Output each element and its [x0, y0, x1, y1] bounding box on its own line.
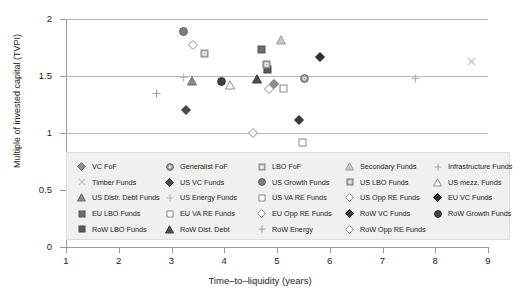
- chart-figure: Multiple of invested capital (TVPI) 00.5…: [0, 0, 520, 296]
- legend-item[interactable]: US Opp RE Funds: [343, 190, 431, 206]
- legend-item[interactable]: EU Opp RE Funds: [255, 206, 343, 222]
- data-point: [181, 105, 191, 115]
- legend-item[interactable]: US VC Funds: [163, 175, 255, 191]
- legend-marker-icon: [431, 176, 444, 189]
- legend-item[interactable]: US Distr. Debt Funds: [75, 190, 163, 206]
- data-point: [257, 45, 266, 54]
- legend-item[interactable]: US Growth Funds: [255, 175, 343, 191]
- legend-label: US Distr. Debt Funds: [92, 193, 160, 202]
- legend-marker-icon: [343, 160, 356, 173]
- x-tick: [172, 247, 173, 253]
- data-point: [248, 128, 258, 138]
- legend-marker-icon: [431, 207, 444, 220]
- legend-label: RoW Energy: [272, 225, 313, 234]
- legend-item[interactable]: RoW Growth Funds: [431, 206, 519, 222]
- y-tick-label: 0: [0, 242, 52, 252]
- legend-item[interactable]: RoW Opp RE Funds: [343, 221, 431, 237]
- data-point: [411, 74, 420, 83]
- x-tick-label: 9: [473, 256, 503, 266]
- legend-marker-icon: [343, 223, 356, 236]
- legend-label: Generalist FoF: [180, 162, 228, 171]
- legend-label: US Energy Funds: [180, 193, 237, 202]
- legend-marker-icon: [343, 207, 356, 220]
- y-axis-title: Multiple of invested capital (TVPI): [12, 6, 22, 196]
- x-tick: [119, 247, 120, 253]
- data-point: [179, 73, 188, 82]
- legend-marker-icon: [75, 160, 88, 173]
- legend-grid: VC FoFGeneralist FoFLBO FoFSecondary Fun…: [75, 159, 509, 237]
- legend-item[interactable]: EU VC Funds: [431, 190, 519, 206]
- x-tick: [224, 247, 225, 253]
- data-point: [252, 74, 262, 84]
- legend-item[interactable]: RoW Energy: [255, 221, 343, 237]
- gridline-y-1.5: [66, 76, 488, 77]
- legend-item[interactable]: Timber Funds: [75, 175, 163, 191]
- legend-item[interactable]: Infrastructure Funds: [431, 159, 519, 175]
- legend-item[interactable]: US LBO Funds: [343, 175, 431, 191]
- x-tick: [277, 247, 278, 253]
- legend-label: Infrastructure Funds: [448, 162, 512, 171]
- data-point: [276, 35, 286, 45]
- legend-item[interactable]: Generalist FoF: [163, 159, 255, 175]
- legend-marker-icon: [163, 207, 176, 220]
- legend-label: EU VA RE Funds: [180, 209, 235, 218]
- data-point: [200, 49, 209, 58]
- x-tick: [435, 247, 436, 253]
- legend-marker-icon: [255, 176, 268, 189]
- x-tick-label: 2: [104, 256, 134, 266]
- legend-item[interactable]: RoW VC Funds: [343, 206, 431, 222]
- x-tick: [383, 247, 384, 253]
- legend-label: VC FoF: [92, 162, 117, 171]
- data-point: [217, 77, 226, 86]
- legend-label: US Growth Funds: [272, 178, 329, 187]
- legend-marker-icon: [163, 223, 176, 236]
- data-point: [298, 138, 307, 147]
- y-tick-label: 2: [0, 14, 52, 24]
- legend-item[interactable]: EU LBO Funds: [75, 206, 163, 222]
- legend-label: LBO FoF: [272, 162, 301, 171]
- legend-marker-icon: [255, 223, 268, 236]
- legend-marker-icon: [75, 191, 88, 204]
- legend-label: EU VC Funds: [448, 193, 492, 202]
- legend-item[interactable]: US Energy Funds: [163, 190, 255, 206]
- legend-marker-icon: [163, 191, 176, 204]
- legend-marker-icon: [75, 176, 88, 189]
- legend-marker-icon: [255, 191, 268, 204]
- legend-label: EU Opp RE Funds: [272, 209, 332, 218]
- legend-label: Secondary Funds: [360, 162, 416, 171]
- legend-item[interactable]: US VA RE Funds: [255, 190, 343, 206]
- data-point: [300, 74, 309, 83]
- x-tick-label: 5: [262, 256, 292, 266]
- legend-marker-icon: [255, 207, 268, 220]
- legend-item[interactable]: Secondary Funds: [343, 159, 431, 175]
- legend-item[interactable]: RoW LBO Funds: [75, 221, 163, 237]
- legend-item[interactable]: EU VA RE Funds: [163, 206, 255, 222]
- y-tick-label: 0.5: [0, 185, 52, 195]
- legend-marker-icon: [431, 191, 444, 204]
- legend-item[interactable]: US mezz. Funds: [431, 175, 519, 191]
- legend-item[interactable]: LBO FoF: [255, 159, 343, 175]
- x-tick: [488, 247, 489, 253]
- legend-marker-icon: [343, 176, 356, 189]
- data-point: [279, 84, 288, 93]
- legend-label: RoW Growth Funds: [448, 209, 511, 218]
- data-point: [315, 52, 325, 62]
- legend-marker-icon: [75, 223, 88, 236]
- legend-label: RoW Opp RE Funds: [360, 225, 426, 234]
- x-tick-label: 6: [315, 256, 345, 266]
- x-tick-label: 7: [368, 256, 398, 266]
- legend-marker-icon: [163, 160, 176, 173]
- legend-label: US VC Funds: [180, 178, 224, 187]
- data-point: [179, 27, 188, 36]
- legend-marker-icon: [343, 191, 356, 204]
- data-point: [264, 84, 274, 94]
- x-tick-label: 3: [157, 256, 187, 266]
- x-tick: [66, 247, 67, 253]
- legend-label: US LBO Funds: [360, 178, 408, 187]
- legend-marker-icon: [255, 160, 268, 173]
- x-axis-title: Time‒to‒liquidity (years): [0, 275, 520, 286]
- legend-item[interactable]: RoW Dist. Debt: [163, 221, 255, 237]
- legend-label: RoW Dist. Debt: [180, 225, 230, 234]
- legend-item[interactable]: VC FoF: [75, 159, 163, 175]
- legend-label: EU LBO Funds: [92, 209, 140, 218]
